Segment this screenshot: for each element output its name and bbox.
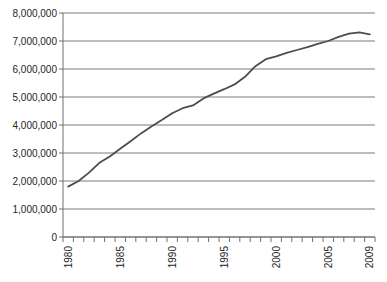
y-gridlines <box>63 13 375 237</box>
x-axis-label: 2005 <box>323 246 334 269</box>
data-series <box>68 32 370 186</box>
x-axis-labels: 1980198519901995200020052009 <box>63 246 376 269</box>
x-axis-label: 1995 <box>219 246 230 269</box>
x-axis-label: 2009 <box>364 246 375 269</box>
x-axis-label: 1985 <box>115 246 126 269</box>
chart-page: 8,000,0007,000,0006,000,0005,000,0004,00… <box>0 0 387 282</box>
y-axis-label: 4,000,000 <box>13 120 58 131</box>
y-axis-label: 1,000,000 <box>13 204 58 215</box>
y-axis-label: 7,000,000 <box>13 36 58 47</box>
y-axis-label: 6,000,000 <box>13 64 58 75</box>
x-axis-label: 1990 <box>167 246 178 269</box>
y-axis-labels: 8,000,0007,000,0006,000,0005,000,0004,00… <box>13 8 58 243</box>
y-axis-label: 8,000,000 <box>13 8 58 19</box>
y-axis-label: 2,000,000 <box>13 176 58 187</box>
y-axis-label: 0 <box>51 232 57 243</box>
x-axis-label: 2000 <box>271 246 282 269</box>
line-chart: 8,000,0007,000,0006,000,0005,000,0004,00… <box>0 0 387 282</box>
y-axis-label: 5,000,000 <box>13 92 58 103</box>
x-axis-label: 1980 <box>63 246 74 269</box>
axis-ticks <box>59 13 375 242</box>
series-line <box>68 32 370 186</box>
y-axis-label: 3,000,000 <box>13 148 58 159</box>
